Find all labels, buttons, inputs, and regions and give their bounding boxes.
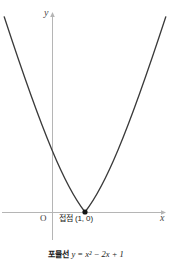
tangent-point-label: 접점 (1, 0) (59, 215, 93, 223)
figure-caption: 포물선 y = x² − 2x + 1 (0, 249, 172, 260)
y-axis-arrow-icon (50, 12, 55, 17)
parabola-figure: y x O 접점 (1, 0) 포물선 y = x² − 2x + 1 (0, 0, 172, 268)
plot-area: y x O 접점 (1, 0) (0, 0, 172, 240)
caption-label: 포물선 (48, 250, 69, 259)
origin-label: O (40, 214, 47, 223)
x-axis-label: x (160, 213, 164, 223)
graph-canvas (0, 0, 172, 240)
y-axis-label: y (44, 8, 48, 18)
caption-equation: y = x² − 2x + 1 (71, 249, 123, 259)
parabola-curve (4, 17, 166, 212)
